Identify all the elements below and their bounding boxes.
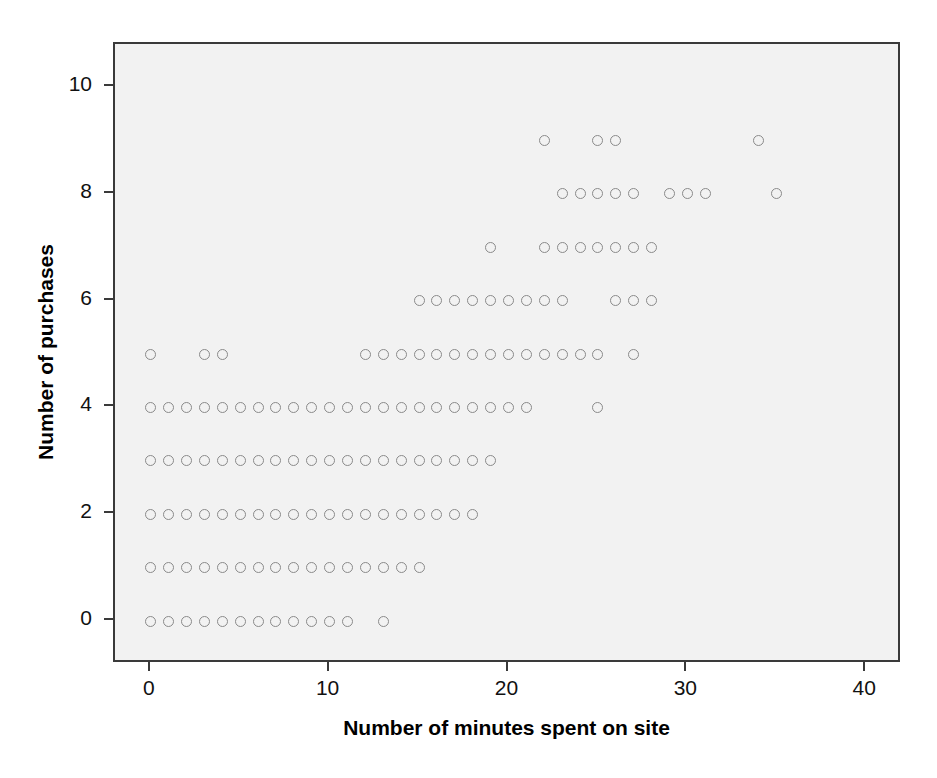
data-points-layer (115, 44, 898, 660)
data-point (485, 295, 496, 306)
data-point (557, 188, 568, 199)
data-point (521, 349, 532, 360)
data-point (575, 242, 586, 253)
data-point (360, 455, 371, 466)
data-point (467, 402, 478, 413)
data-point (163, 455, 174, 466)
data-point (539, 135, 550, 146)
data-point (557, 242, 568, 253)
data-point (539, 242, 550, 253)
data-point (199, 562, 210, 573)
y-tick-mark (104, 191, 113, 193)
data-point (449, 349, 460, 360)
data-point (414, 349, 425, 360)
x-tick-mark (684, 662, 686, 671)
plot-area (113, 42, 900, 662)
data-point (503, 295, 514, 306)
data-point (288, 455, 299, 466)
data-point (485, 455, 496, 466)
data-point (396, 562, 407, 573)
data-point (396, 455, 407, 466)
data-point (575, 349, 586, 360)
data-point (557, 295, 568, 306)
data-point (306, 455, 317, 466)
data-point (217, 616, 228, 627)
data-point (288, 509, 299, 520)
x-tick-label: 0 (119, 676, 179, 700)
data-point (253, 509, 264, 520)
data-point (199, 402, 210, 413)
data-point (217, 455, 228, 466)
data-point (270, 562, 281, 573)
data-point (235, 402, 246, 413)
data-point (628, 295, 639, 306)
data-point (610, 295, 621, 306)
data-point (628, 188, 639, 199)
data-point (539, 349, 550, 360)
data-point (181, 402, 192, 413)
x-tick-mark (148, 662, 150, 671)
data-point (342, 562, 353, 573)
data-point (199, 349, 210, 360)
data-point (342, 616, 353, 627)
data-point (539, 295, 550, 306)
x-tick-label: 10 (298, 676, 358, 700)
data-point (181, 455, 192, 466)
data-point (253, 402, 264, 413)
data-point (431, 402, 442, 413)
data-point (467, 455, 478, 466)
data-point (360, 509, 371, 520)
data-point (163, 402, 174, 413)
data-point (163, 616, 174, 627)
data-point (485, 349, 496, 360)
data-point (235, 509, 246, 520)
data-point (592, 135, 603, 146)
data-point (360, 402, 371, 413)
data-point (235, 455, 246, 466)
data-point (145, 616, 156, 627)
data-point (521, 295, 532, 306)
data-point (270, 509, 281, 520)
data-point (145, 509, 156, 520)
data-point (199, 509, 210, 520)
data-point (414, 295, 425, 306)
data-point (270, 616, 281, 627)
data-point (288, 562, 299, 573)
x-tick-mark (327, 662, 329, 671)
x-tick-label: 40 (834, 676, 894, 700)
data-point (235, 562, 246, 573)
data-point (199, 616, 210, 627)
data-point (449, 509, 460, 520)
data-point (664, 188, 675, 199)
y-tick-mark (104, 404, 113, 406)
data-point (324, 509, 335, 520)
data-point (378, 562, 389, 573)
data-point (253, 455, 264, 466)
data-point (575, 188, 586, 199)
x-axis-title: Number of minutes spent on site (113, 716, 900, 740)
scatter-plot-figure: 0246810 010203040 Number of minutes spen… (0, 0, 937, 778)
data-point (431, 349, 442, 360)
data-point (288, 616, 299, 627)
data-point (610, 135, 621, 146)
data-point (324, 616, 335, 627)
data-point (253, 562, 264, 573)
data-point (431, 455, 442, 466)
data-point (431, 295, 442, 306)
data-point (396, 349, 407, 360)
data-point (217, 349, 228, 360)
y-tick-mark (104, 298, 113, 300)
data-point (431, 509, 442, 520)
data-point (414, 402, 425, 413)
data-point (145, 562, 156, 573)
data-point (592, 242, 603, 253)
data-point (592, 188, 603, 199)
data-point (485, 402, 496, 413)
data-point (503, 349, 514, 360)
data-point (288, 402, 299, 413)
data-point (396, 509, 407, 520)
data-point (360, 349, 371, 360)
data-point (378, 455, 389, 466)
data-point (342, 509, 353, 520)
data-point (342, 402, 353, 413)
